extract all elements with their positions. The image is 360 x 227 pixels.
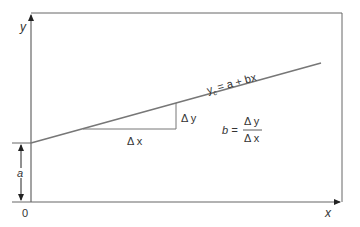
x-axis-label: x (324, 206, 332, 220)
equation-label: yc= a + bx (205, 71, 258, 98)
svg-text:yc= a + bx: yc= a + bx (205, 71, 258, 98)
slope-formula-lhs: b = (222, 124, 238, 136)
intercept-label: a (17, 167, 23, 179)
slope-formula-denominator: Δ x (244, 132, 260, 144)
delta-y-label: Δ y (181, 112, 197, 124)
slope-formula-numerator: Δ y (244, 115, 260, 127)
delta-x-label: Δ x (127, 135, 143, 147)
slope-formula: b = Δ y Δ x (222, 115, 262, 144)
regression-diagram: y x 0 yc= a + bx Δ x Δ y a b = Δ y Δ x (0, 0, 360, 227)
origin-label: 0 (22, 207, 28, 219)
y-axis-label: y (19, 20, 27, 34)
plot-frame (31, 13, 342, 202)
